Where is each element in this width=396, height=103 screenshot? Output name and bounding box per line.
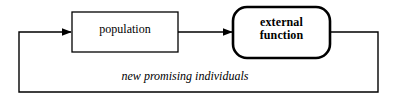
population-node-label: population — [72, 23, 178, 36]
flow-diagram: population external function new promisi… — [0, 0, 396, 103]
external-function-node-label: external function — [233, 16, 330, 43]
feedback-loop-label: new promising individuals — [60, 70, 310, 83]
diagram-canvas — [0, 0, 396, 103]
